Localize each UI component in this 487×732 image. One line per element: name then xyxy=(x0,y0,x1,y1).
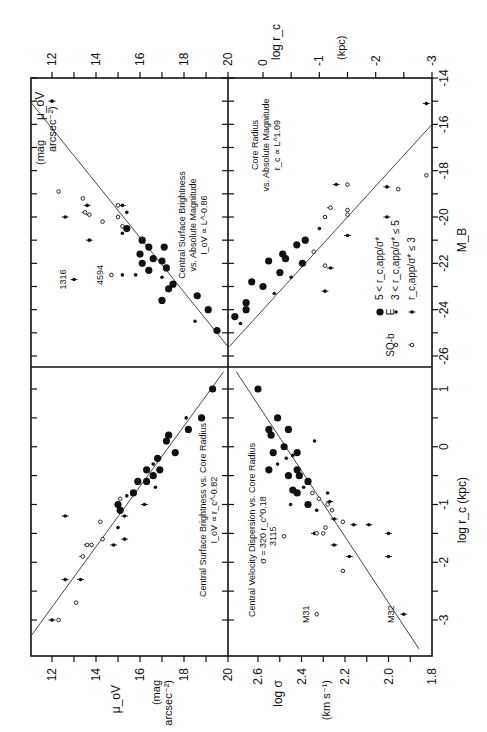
marker-large-filled xyxy=(299,260,306,267)
axis-units-top-mu-2: arcsec⁻²) xyxy=(46,106,58,152)
tick-label-bottom-mu: 20 xyxy=(221,668,235,682)
panel-title-2-line-1: I_oV ∝ r_c^-0.82 xyxy=(209,477,219,544)
marker-large-filled xyxy=(158,257,165,264)
marker-small-filled xyxy=(239,322,243,326)
axis-units-top-logrc: (kpc) xyxy=(335,36,347,60)
tick-label-bottom-mu: 18 xyxy=(177,668,191,682)
marker-large-filled xyxy=(185,426,192,433)
marker-open xyxy=(57,190,61,194)
marker-large-filled xyxy=(248,278,255,285)
marker-large-filled xyxy=(123,225,130,232)
marker-open xyxy=(315,612,319,616)
tick-label-bottom-logsigma: 2.0 xyxy=(382,668,396,685)
marker-open-tick xyxy=(329,206,333,210)
fit-lines xyxy=(30,101,432,649)
marker-small-filled xyxy=(125,494,129,498)
panel-title-2-line-0: Central Surface Brightness vs. Core Radi… xyxy=(198,422,208,597)
marker-small-filled xyxy=(313,439,317,443)
plot-frame xyxy=(31,78,432,656)
tick-label-top-mu: 14 xyxy=(89,52,103,66)
marker-small-filled xyxy=(284,457,288,461)
marker-open xyxy=(317,497,321,501)
marker-large-filled xyxy=(265,257,272,264)
marker-open xyxy=(282,534,286,538)
marker-small-filled xyxy=(318,227,322,231)
marker-large-filled xyxy=(293,241,300,248)
marker-large-filled xyxy=(213,327,220,334)
marker-open xyxy=(312,250,316,254)
marker-open xyxy=(330,508,334,512)
tick-label-top-mu: 16 xyxy=(133,52,147,66)
tick-label-top-mu: 12 xyxy=(45,52,59,66)
marker-large-filled xyxy=(154,455,161,462)
tick-label-bottom-logsigma: 2.4 xyxy=(295,668,309,685)
marker-open xyxy=(394,343,398,347)
marker-open xyxy=(346,183,350,187)
fit-line-lower-left xyxy=(30,372,224,638)
panel-title-1-line-1: vs. Absolute Magnitude xyxy=(261,98,271,191)
marker-large-filled xyxy=(243,306,250,313)
marker-large-filled xyxy=(139,237,146,244)
marker-open xyxy=(118,497,122,501)
legend-entry-0: 5 < r_c,app/σ* xyxy=(374,237,385,300)
marker-open xyxy=(346,213,350,217)
data-points xyxy=(49,99,430,621)
axis-units-top-mu-1: (mag xyxy=(34,140,46,165)
marker-open xyxy=(425,174,429,178)
axis-title-right-logrc: log r_c (kpc) xyxy=(455,477,469,543)
axis-title-bottom-mu: μ_oV xyxy=(109,685,123,713)
marker-large-filled xyxy=(274,414,281,421)
marker-open xyxy=(315,532,319,536)
figure-svg: 459413163115M31M32Central Surface Bright… xyxy=(0,0,487,732)
marker-large-filled xyxy=(139,260,146,267)
axis-units-bottom-logsigma: (km s⁻¹) xyxy=(320,680,332,720)
panel-title-1-line-0: Core Radius xyxy=(250,119,260,170)
marker-large-filled xyxy=(205,306,212,313)
marker-large-filled xyxy=(302,237,309,244)
marker-small-filled xyxy=(121,231,125,235)
marker-large-filled xyxy=(163,264,170,271)
marker-large-filled xyxy=(267,432,274,439)
marker-large-filled xyxy=(285,426,292,433)
point-label-M31: M31 xyxy=(301,605,311,623)
marker-large-filled xyxy=(143,466,150,473)
marker-small-filled xyxy=(160,275,164,279)
marker-large-filled xyxy=(285,472,292,479)
marker-large-filled xyxy=(296,472,303,479)
marker-large-filled xyxy=(294,449,301,456)
axis-title-right-mb: M_B xyxy=(455,228,469,253)
marker-small-filled xyxy=(125,211,129,215)
legend-entry-1: 3 < r_c,app/σ* ≤ 5 xyxy=(390,220,401,300)
marker-small-filled xyxy=(121,273,125,277)
point-label-4594: 4594 xyxy=(95,265,105,285)
panel-title-1-line-2: r_c ∝ L^1.09 xyxy=(272,120,282,170)
tick-label-bottom-mu: 12 xyxy=(45,668,59,682)
marker-large-filled xyxy=(259,283,266,290)
tick-label-top-logrc: -2 xyxy=(369,55,383,66)
marker-small-filled xyxy=(272,292,276,296)
marker-small-filled xyxy=(134,273,138,277)
marker-large-filled xyxy=(270,449,277,456)
legend-entry-2: r_c,app/σ* ≤ 3 xyxy=(406,237,417,300)
tick-label-right-logrc: 1 xyxy=(437,385,451,392)
marker-large-filled xyxy=(231,313,238,320)
marker-large-filled xyxy=(265,466,272,473)
marker-large-filled xyxy=(198,414,205,421)
point-label-1316: 1316 xyxy=(58,270,68,290)
marker-large-filled xyxy=(145,267,152,274)
marker-large-filled xyxy=(117,507,124,514)
marker-large-filled xyxy=(254,385,261,392)
marker-small-filled xyxy=(154,485,158,489)
marker-large-filled xyxy=(150,255,157,262)
marker-large-filled xyxy=(376,308,383,315)
tick-label-top-mu: 20 xyxy=(221,52,235,66)
tick-label-right-mb: -18 xyxy=(437,162,451,180)
marker-small-filled xyxy=(315,508,319,512)
marker-large-filled xyxy=(158,297,165,304)
marker-large-filled xyxy=(156,466,163,473)
tick-label-right-mb: -14 xyxy=(437,69,451,87)
marker-large-filled xyxy=(209,385,216,392)
marker-large-filled xyxy=(281,443,288,450)
marker-open xyxy=(74,601,78,605)
tick-label-right-mb: -16 xyxy=(437,115,451,133)
